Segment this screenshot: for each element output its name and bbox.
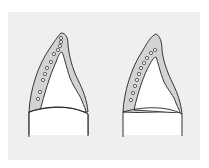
- tooth-right: [123, 34, 182, 137]
- tooth-diagram: [0, 0, 209, 168]
- tooth-left: [29, 33, 88, 137]
